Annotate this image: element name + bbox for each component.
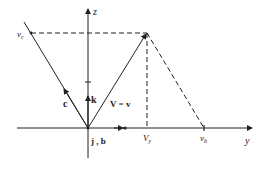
y-axis-label: y (244, 135, 250, 146)
vc-point (30, 32, 33, 35)
vb-dashed-line (147, 33, 204, 128)
vy-label: Vy (143, 133, 152, 144)
vc-label: vc (17, 29, 24, 40)
c-vector-label: c (63, 98, 68, 109)
c-vector-arrow (64, 89, 88, 128)
k-vector-label: k (91, 94, 97, 105)
v-vector (88, 34, 146, 128)
z-axis-label: z (92, 6, 97, 17)
v-vector-label: V = v (110, 99, 131, 109)
vb-point-marker (123, 126, 126, 129)
origin-point (87, 127, 90, 130)
velocity-vector-diagram: z y vc c k V = v j , b Vy vb (0, 0, 269, 170)
jb-label: j , b (90, 136, 106, 146)
vb-label: vb (200, 133, 207, 144)
